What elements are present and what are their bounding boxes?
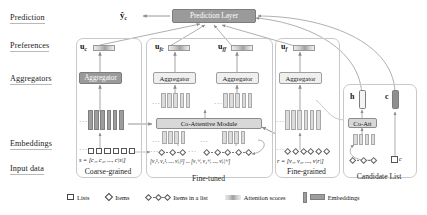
legend-label-lists: Lists bbox=[77, 194, 89, 201]
preference-bar-uc bbox=[93, 45, 115, 51]
list-square bbox=[113, 148, 119, 154]
embedding-bar bbox=[248, 93, 253, 108]
embedding-bar bbox=[181, 131, 186, 144]
candidate-item-chain bbox=[350, 158, 377, 163]
aggregator-coarse[interactable]: Aggregator bbox=[79, 72, 122, 84]
item-diamond bbox=[292, 148, 300, 156]
item-diamond bbox=[168, 149, 176, 157]
row-label-input-data-text: Input data bbox=[10, 164, 44, 173]
embedding-bar bbox=[173, 93, 178, 108]
embedding-bar bbox=[235, 93, 240, 108]
prediction-layer-box[interactable]: Prediction Layer bbox=[172, 9, 256, 23]
preference-bar-uf bbox=[293, 45, 315, 51]
row-label-embeddings: Embeddings bbox=[10, 139, 52, 150]
embedding-bar bbox=[174, 131, 179, 144]
embedding-bar bbox=[353, 134, 358, 145]
item-diamond bbox=[245, 149, 253, 157]
embedding-tall-bar bbox=[303, 192, 308, 203]
candidate-c-embedding bbox=[392, 90, 399, 109]
item-diamond bbox=[213, 149, 221, 157]
item-diamond bbox=[284, 148, 292, 156]
embedding-bar bbox=[310, 110, 315, 130]
panel-title-fine-grained: Fine-grained bbox=[275, 167, 338, 176]
row-label-underline bbox=[10, 149, 52, 150]
legend-label-items: Items bbox=[115, 194, 129, 201]
input-item-chain-left bbox=[159, 150, 186, 155]
co-attentive-module-box[interactable]: Co-Attentive Module bbox=[156, 118, 262, 129]
co-att-label: Co-Att bbox=[353, 120, 371, 127]
u-subscript: fc bbox=[159, 46, 163, 52]
diagram-canvas: Prediction Preferences Aggregators Embed… bbox=[0, 0, 427, 215]
legend-item-embeddings: Embeddings bbox=[303, 192, 360, 203]
chain-diamond bbox=[145, 193, 152, 200]
legend-label-items-in-a-list: Items in a list bbox=[173, 194, 208, 201]
input-diamonds-fine bbox=[285, 149, 329, 154]
list-square bbox=[88, 148, 94, 154]
aggregator-fine-tuned[interactable]: Aggregator bbox=[153, 72, 196, 84]
embedding-bar bbox=[88, 110, 93, 130]
embedding-bars-fine-tuned-upper-right bbox=[223, 95, 252, 108]
legend-label-attention-scores: Attention scores bbox=[244, 194, 286, 201]
aggregator-fine-fine[interactable]: Aggregator bbox=[216, 72, 259, 84]
legend-label-embeddings: Embeddings bbox=[328, 194, 360, 201]
embedding-bar bbox=[371, 134, 376, 145]
candidate-item-label: c bbox=[399, 155, 402, 162]
co-attentive-module-label: Co-Attentive Module bbox=[181, 120, 238, 127]
row-label-preferences: Preferences bbox=[10, 41, 49, 52]
aggregator-coarse-label: Aggregator bbox=[84, 74, 117, 82]
embedding-bars-coarse bbox=[88, 112, 124, 130]
embedding-bar bbox=[113, 110, 118, 130]
list-square bbox=[129, 148, 135, 154]
panel-title-fine-tuned: Fine-tuned bbox=[146, 174, 271, 183]
ellipsis-ft-mid-center: ··· bbox=[200, 138, 209, 146]
co-att-box[interactable]: Co-Att bbox=[348, 118, 377, 128]
preference-label-uff: uff bbox=[218, 42, 226, 51]
panel-fine-tuned bbox=[146, 38, 273, 178]
candidate-h-embedding bbox=[359, 90, 366, 109]
item-diamond bbox=[349, 157, 357, 165]
embedding-bar bbox=[100, 110, 105, 130]
row-label-input-data: Input data bbox=[10, 164, 44, 175]
aggregator-fine[interactable]: Aggregator bbox=[279, 72, 322, 84]
embedding-bar bbox=[229, 93, 234, 108]
embedding-bar bbox=[180, 93, 185, 108]
item-diamond bbox=[315, 148, 323, 156]
ellipsis-ft-upper-right: ··· bbox=[214, 100, 223, 108]
aggregator-fine-fine-label: Aggregator bbox=[222, 75, 252, 82]
legend: Lists Items Items in a list Attention sc… bbox=[0, 190, 427, 204]
ellipsis-coarse-bars: ··· bbox=[79, 118, 88, 126]
embedding-bar bbox=[223, 93, 228, 108]
panel-title-coarse-grained: Coarse-grained bbox=[76, 167, 140, 176]
embedding-bar bbox=[94, 110, 99, 130]
candidate-h-label: h bbox=[350, 92, 354, 101]
input-item-chain-right bbox=[204, 150, 252, 155]
ellipsis-ft-mid-left: ··· bbox=[152, 138, 161, 146]
ellipsis-fine-bars: ··· bbox=[276, 118, 285, 126]
embedding-bar bbox=[161, 93, 166, 108]
lists-square-icon bbox=[67, 194, 74, 201]
embedding-bar bbox=[119, 110, 124, 130]
item-diamond bbox=[203, 149, 211, 157]
item-diamond bbox=[179, 149, 187, 157]
preference-label-uc: uc bbox=[80, 42, 87, 51]
chain-diamond bbox=[164, 193, 171, 200]
aggregator-fine-label: Aggregator bbox=[285, 75, 315, 82]
embedding-bars-fine-grained bbox=[285, 112, 321, 130]
y-hat-subscript: c bbox=[125, 15, 127, 21]
formula-coarse: s = [c₁, c₂, ..., c|s|] bbox=[79, 156, 126, 163]
row-label-prediction-text: Prediction bbox=[10, 13, 45, 22]
item-diamond bbox=[158, 149, 166, 157]
u-subscript: ff bbox=[222, 46, 226, 52]
items-in-list-chain-icon bbox=[146, 195, 170, 200]
list-square bbox=[121, 148, 127, 154]
embeddings-bars-icon bbox=[303, 192, 325, 203]
legend-item-lists: Lists bbox=[67, 194, 89, 201]
embedding-bar bbox=[316, 110, 321, 130]
list-square bbox=[104, 148, 110, 154]
formula-fine-grained: r = [v₁, v₂, ..., v|r|] bbox=[277, 157, 324, 164]
candidate-c-label: c bbox=[385, 92, 389, 101]
prediction-layer-label: Prediction Layer bbox=[190, 12, 238, 20]
embedding-bar bbox=[107, 110, 112, 130]
legend-item-items: Items bbox=[106, 194, 129, 201]
chain-diamond bbox=[155, 193, 162, 200]
